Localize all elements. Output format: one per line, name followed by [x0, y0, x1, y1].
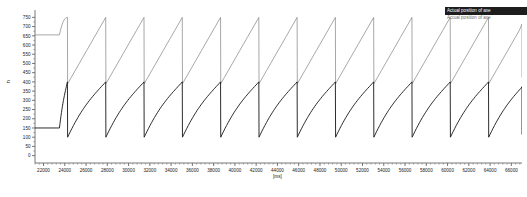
x-tick-label: 34000 — [165, 168, 178, 173]
x-tick-label: 36000 — [186, 168, 199, 173]
y-tick-label: 500 — [23, 61, 31, 66]
y-tick-label: 750 — [23, 15, 31, 20]
y-tick-label: 0 — [28, 153, 31, 158]
series-line-1 — [35, 17, 522, 83]
y-tick-label: 200 — [23, 116, 31, 121]
x-tick-label: 30000 — [122, 168, 135, 173]
x-tick-label: 66000 — [505, 168, 518, 173]
x-tick-label: 24000 — [58, 168, 71, 173]
x-tick-label: 28000 — [101, 168, 114, 173]
y-tick-label: 100 — [23, 135, 31, 140]
x-tick-label: 50000 — [335, 168, 348, 173]
x-tick-label: 44000 — [271, 168, 284, 173]
x-axis: 2200024000260002800030000320003400036000… — [35, 163, 522, 173]
x-tick-label: 58000 — [420, 168, 433, 173]
y-tick-label: 50 — [25, 144, 31, 149]
x-tick-label: 62000 — [462, 168, 475, 173]
chart-plot-area: 0501001502002503003504004505005506006507… — [0, 0, 527, 197]
series-line-2 — [35, 82, 522, 137]
y-tick-label: 300 — [23, 98, 31, 103]
chart-container: 0501001502002503003504004505005506006507… — [0, 0, 527, 197]
x-tick-label: 32000 — [143, 168, 156, 173]
x-axis-unit-label: [ms] — [273, 174, 282, 179]
legend-entry-actual-position-secondary[interactable]: Actual position of axe — [445, 15, 527, 23]
y-tick-label: 150 — [23, 126, 31, 131]
x-tick-label: 26000 — [80, 168, 93, 173]
x-tick-label: 64000 — [484, 168, 497, 173]
y-tick-label: 650 — [23, 34, 31, 39]
x-tick-label: 56000 — [399, 168, 412, 173]
x-tick-label: 22000 — [37, 168, 50, 173]
x-tick-label: 52000 — [356, 168, 369, 173]
x-tick-label: 42000 — [250, 168, 263, 173]
x-tick-label: 54000 — [377, 168, 390, 173]
x-tick-label: 38000 — [207, 168, 220, 173]
y-tick-label: 350 — [23, 89, 31, 94]
y-tick-label: 550 — [23, 52, 31, 57]
x-tick-label: 40000 — [229, 168, 242, 173]
y-tick-label: 250 — [23, 107, 31, 112]
y-tick-label: 400 — [23, 80, 31, 85]
x-tick-label: 46000 — [292, 168, 305, 173]
y-axis-title: n — [5, 80, 11, 83]
series-group — [35, 17, 522, 137]
x-tick-label: 60000 — [441, 168, 454, 173]
y-tick-label: 450 — [23, 70, 31, 75]
y-axis: 0501001502002503003504004505005506006507… — [23, 10, 35, 163]
chart-legend[interactable]: Actual position of axe Actual position o… — [445, 7, 527, 23]
x-tick-label: 48000 — [314, 168, 327, 173]
y-tick-label: 700 — [23, 24, 31, 29]
legend-entry-actual-position-primary[interactable]: Actual position of axe — [445, 7, 527, 15]
y-tick-label: 600 — [23, 43, 31, 48]
